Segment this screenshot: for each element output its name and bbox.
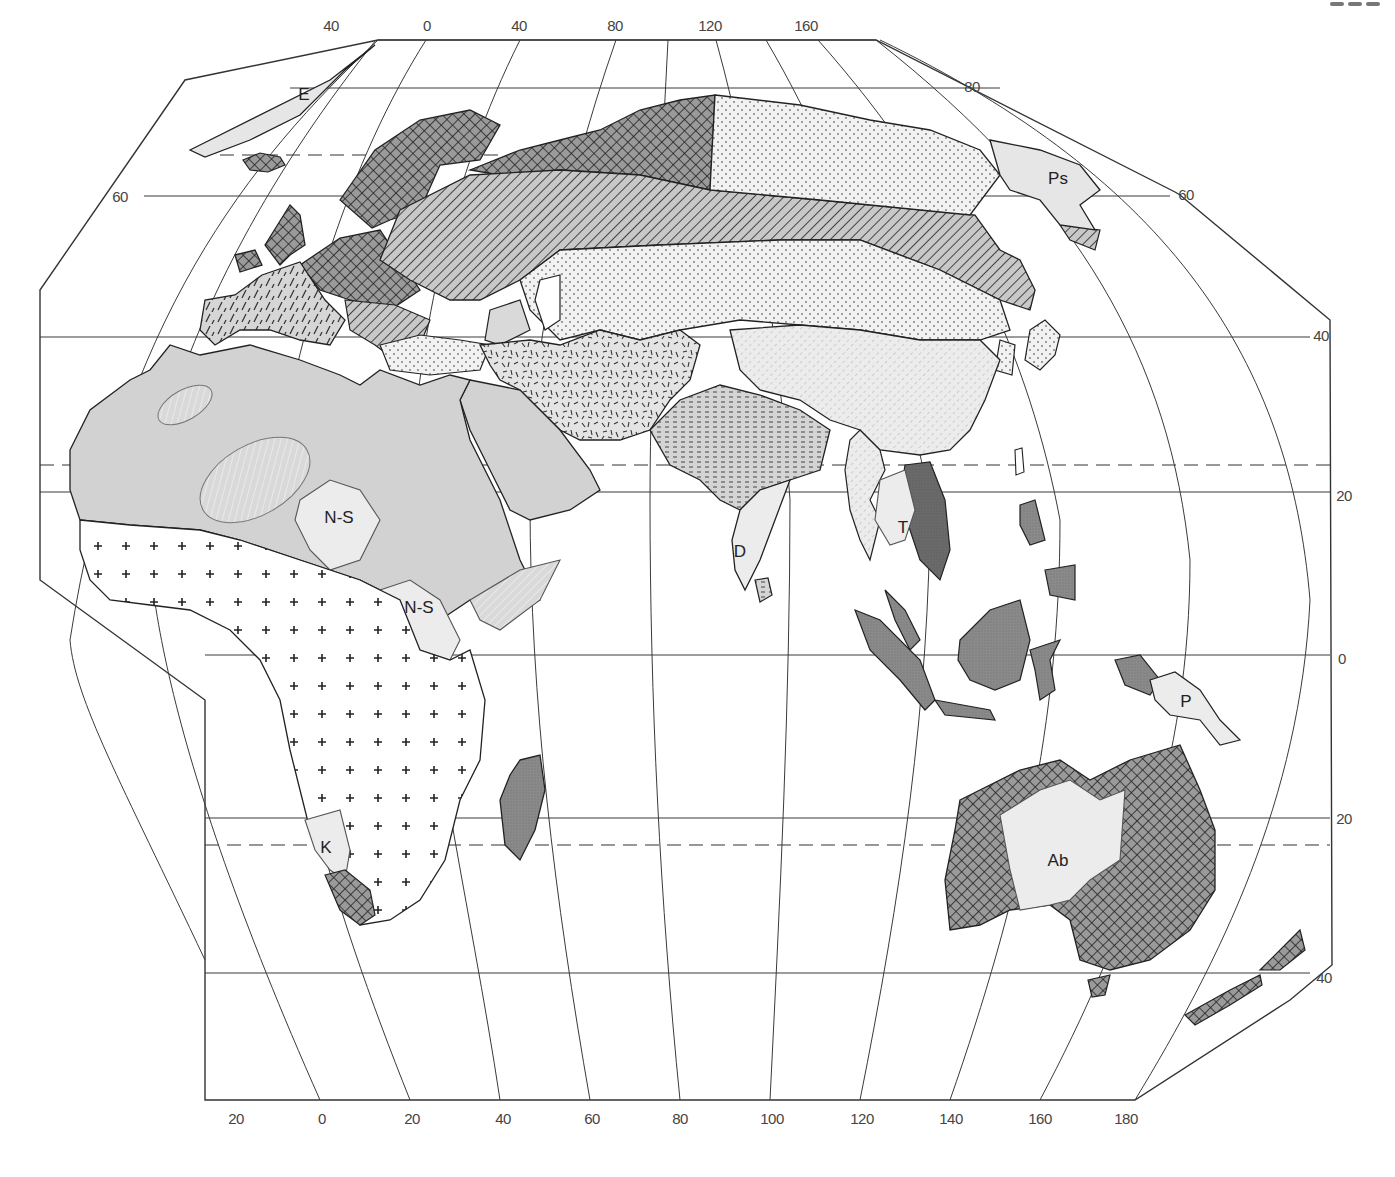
lon-label-bottom: 60 [584, 1110, 600, 1127]
region-caucasus [485, 300, 530, 345]
lat-label-right: 40 [1316, 969, 1332, 986]
region-new-guinea-p [1150, 672, 1240, 745]
lon-label-bottom: 160 [1028, 1110, 1052, 1127]
lat-label-right: 20 [1336, 810, 1352, 827]
lat-label-right: 60 [1178, 186, 1194, 203]
lat-label-right: 40 [1313, 327, 1329, 344]
lon-label-bottom: 0 [318, 1110, 326, 1127]
region-label-ps: Ps [1048, 169, 1068, 189]
region-label-ab: Ab [1048, 851, 1069, 871]
region-philippines [1020, 500, 1075, 600]
lat-label-right: 0 [1338, 650, 1346, 667]
lon-label-bottom: 20 [228, 1110, 244, 1127]
lon-label-bottom: 100 [760, 1110, 784, 1127]
region-british-isles [235, 205, 305, 272]
lon-label-bottom: 120 [850, 1110, 874, 1127]
lat-label-right: 80 [964, 78, 980, 95]
lon-label-bottom: 20 [404, 1110, 420, 1127]
region-chukotka-ps [990, 140, 1100, 230]
map-canvas [0, 0, 1395, 1177]
lon-label-bottom: 140 [939, 1110, 963, 1127]
region-tasmania [1088, 975, 1110, 997]
caspian-sea [535, 275, 560, 330]
region-north-india-hdash [650, 385, 830, 510]
region-label-d: D [734, 542, 746, 562]
lon-label-bottom: 80 [672, 1110, 688, 1127]
lon-label-top: 0 [423, 17, 431, 34]
region-label-p: P [1180, 692, 1191, 712]
region-label-t: T [898, 518, 908, 538]
region-madagascar [500, 755, 545, 860]
region-label-ns-central: N-S [324, 508, 353, 528]
region-label-e: E [298, 85, 309, 105]
lon-label-bottom: 180 [1114, 1110, 1138, 1127]
lon-label-top: 40 [323, 17, 339, 34]
region-sri-lanka [755, 578, 772, 602]
lon-label-bottom: 40 [495, 1110, 511, 1127]
region-borneo [958, 600, 1030, 690]
region-sumatra [855, 610, 935, 710]
lat-label-right: 20 [1336, 487, 1352, 504]
region-label-k: K [320, 838, 331, 858]
lat-label-left: 60 [112, 188, 128, 205]
lon-label-top: 40 [511, 17, 527, 34]
region-label-ns-upper-nile: N-S [404, 598, 433, 618]
region-iceland [243, 153, 285, 172]
lon-label-top: 160 [794, 17, 818, 34]
region-sulawesi [1030, 640, 1060, 700]
region-anatolia-dotted [380, 335, 490, 375]
region-taiwan [1015, 448, 1024, 475]
region-java [935, 700, 995, 720]
lon-label-top: 120 [698, 17, 722, 34]
lon-label-top: 80 [607, 17, 623, 34]
